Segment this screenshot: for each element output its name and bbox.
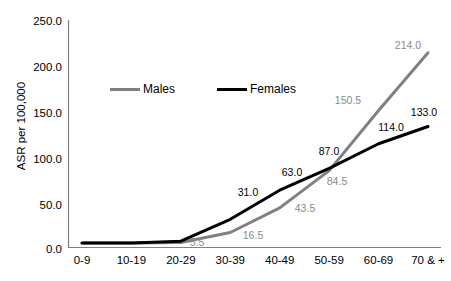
legend-label-males: Males [143,82,175,96]
data-label-females: 87.0 [319,145,339,157]
x-tick-label: 50-59 [314,254,343,266]
x-tick-label: 70 & + [411,254,445,266]
x-tick-label: 60-69 [364,254,393,266]
data-label-males: 16.5 [243,229,263,241]
x-tick-label: 10-19 [117,254,146,266]
data-label-males: 84.5 [327,175,347,187]
line-chart: ASR per 100,000 250.0 200.0 150.0 100.0 … [0,0,451,281]
legend-label-females: Females [250,82,296,96]
data-label-females: 133.0 [411,106,437,118]
data-label-males: 214.0 [395,39,421,51]
series-line-females [82,126,428,242]
legend-item-females: Females [217,82,296,96]
data-label-males: 5.5 [190,236,205,248]
x-tick-label: 30-39 [216,254,245,266]
data-label-females: 63.0 [282,166,302,178]
data-label-males: 43.5 [295,202,315,214]
chart-legend: Males Females [110,82,296,96]
x-tick-label: 20-29 [166,254,195,266]
plot-area [0,0,451,281]
legend-item-males: Males [110,82,175,96]
legend-swatch-males-icon [110,88,140,91]
data-label-females: 114.0 [378,121,404,133]
data-label-females: 31.0 [238,186,258,198]
data-label-males: 150.5 [335,94,361,106]
legend-swatch-females-icon [217,88,247,91]
x-tick-label: 0-9 [74,254,91,266]
x-tick-label: 40-49 [265,254,294,266]
